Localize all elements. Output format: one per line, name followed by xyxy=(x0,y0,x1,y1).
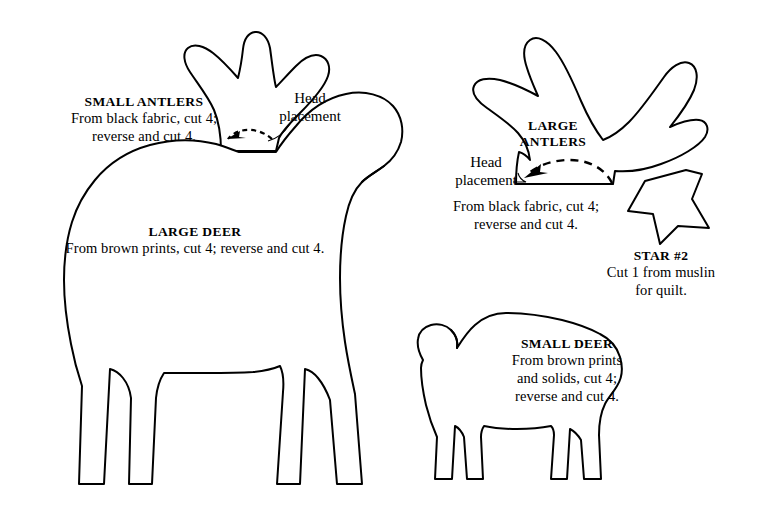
callout-head-placement-small-antlers: Head placement xyxy=(270,90,350,125)
small-deer-line-3: reverse and cut 4. xyxy=(492,388,642,406)
large-deer-title: LARGE DEER xyxy=(42,224,348,240)
head-placement-small-line-2: placement xyxy=(270,108,350,126)
callout-head-placement-large-antlers: Head placement xyxy=(443,154,529,189)
label-large-antlers-body: From black fabric, cut 4; reverse and cu… xyxy=(436,198,616,233)
star-2-shape xyxy=(628,170,709,244)
large-antlers-title-line-2: ANTLERS xyxy=(508,134,598,150)
pattern-sheet: SMALL ANTLERS From black fabric, cut 4; … xyxy=(0,0,758,514)
head-placement-small-line-1: Head xyxy=(270,90,350,108)
small-antlers-line-2: reverse and cut 4. xyxy=(44,128,244,146)
small-antlers-line-1: From black fabric, cut 4; xyxy=(44,110,244,128)
small-antlers-title: SMALL ANTLERS xyxy=(44,94,244,110)
label-small-antlers: SMALL ANTLERS From black fabric, cut 4; … xyxy=(44,94,244,146)
small-deer-title: SMALL DEER xyxy=(492,336,642,352)
large-antlers-title-line-1: LARGE xyxy=(508,118,598,134)
small-deer-line-1: From brown prints xyxy=(492,352,642,370)
label-large-deer: LARGE DEER From brown prints, cut 4; rev… xyxy=(42,224,348,258)
star-2-line-1: Cut 1 from muslin xyxy=(596,264,726,282)
label-large-antlers-title: LARGE ANTLERS xyxy=(508,118,598,151)
small-deer-line-2: and solids, cut 4; xyxy=(492,370,642,388)
star-2-title: STAR #2 xyxy=(596,248,726,264)
large-deer-shape xyxy=(64,93,402,484)
head-placement-large-line-1: Head xyxy=(443,154,529,172)
head-placement-large-line-2: placement xyxy=(443,172,529,190)
label-star-2: STAR #2 Cut 1 from muslin for quilt. xyxy=(596,248,726,300)
large-antlers-line-1: From black fabric, cut 4; xyxy=(436,198,616,216)
star-2-line-2: for quilt. xyxy=(596,282,726,300)
large-deer-line-1: From brown prints, cut 4; reverse and cu… xyxy=(42,240,348,258)
large-antlers-line-2: reverse and cut 4. xyxy=(436,216,616,234)
label-small-deer: SMALL DEER From brown prints and solids,… xyxy=(492,336,642,406)
